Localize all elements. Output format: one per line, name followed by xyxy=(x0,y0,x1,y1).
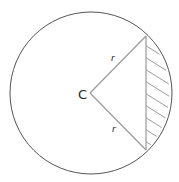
circle xyxy=(10,12,172,174)
radius-top xyxy=(90,36,146,93)
center-label: C xyxy=(78,87,87,102)
radius-label-top: r xyxy=(111,53,116,63)
circle-segment-diagram: C r r xyxy=(0,0,179,182)
radius-bottom xyxy=(90,93,146,150)
radius-label-bottom: r xyxy=(112,124,117,134)
